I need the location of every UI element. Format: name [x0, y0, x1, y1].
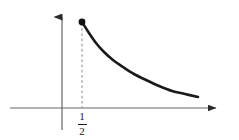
curve-endpoint-dot: [79, 19, 86, 26]
x-tick-label-one-half: 1 2: [75, 111, 89, 137]
decay-curve: [82, 22, 198, 97]
fraction-numerator: 1: [79, 111, 85, 123]
fraction-denominator: 2: [79, 126, 85, 138]
graph-figure: 1 2: [0, 0, 239, 140]
plot-canvas: [0, 0, 239, 140]
